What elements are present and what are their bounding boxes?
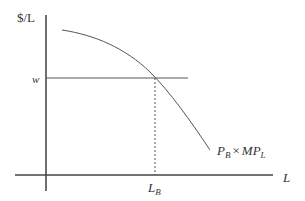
labor-demand-diagram: $/L w L LB PB×MPL [0,0,305,201]
mrp-curve [62,30,210,150]
curve-label: PB×MPL [216,143,266,160]
wage-label: w [32,73,40,85]
lb-label: LB [147,180,161,197]
x-axis-label: L [282,170,290,185]
y-axis-label: $/L [17,10,35,25]
